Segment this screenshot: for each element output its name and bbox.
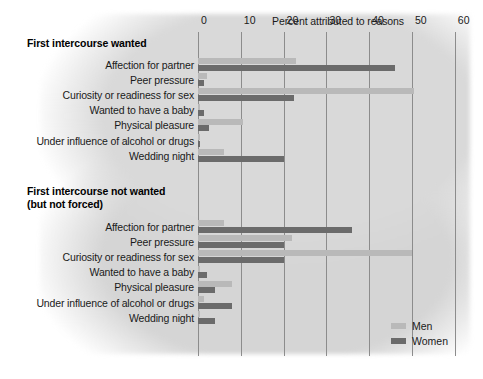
- legend-swatch-icon: [391, 323, 406, 329]
- bar-women: [198, 227, 352, 233]
- legend-label: Women: [412, 335, 448, 347]
- chart-root: Percent attributed to reasons 0102030405…: [0, 0, 483, 379]
- gridline-40: [369, 32, 370, 356]
- bar-women: [198, 242, 284, 248]
- gridline-30: [326, 32, 327, 356]
- bar-women: [198, 110, 204, 116]
- legend-label: Men: [412, 320, 432, 332]
- gridline-20: [284, 32, 285, 356]
- category-label: Affection for partner: [8, 221, 194, 233]
- category-label: Peer pressure: [8, 236, 194, 248]
- x-tick-label-10: 10: [241, 14, 256, 26]
- x-tick-label-50: 50: [412, 14, 427, 26]
- legend: MenWomen: [391, 318, 448, 348]
- bar-men: [198, 134, 200, 140]
- bar-women: [198, 156, 284, 162]
- category-label: Wanted to have a baby: [8, 266, 194, 278]
- bar-men: [198, 119, 243, 125]
- legend-item: Men: [391, 318, 448, 333]
- bar-men: [198, 88, 414, 94]
- bar-men: [198, 220, 224, 226]
- category-label: Curiosity or readiness for sex: [8, 251, 194, 263]
- bar-women: [198, 65, 395, 71]
- x-tick-label-60: 60: [455, 14, 470, 26]
- bar-women: [198, 318, 215, 324]
- category-label: Wedding night: [8, 312, 194, 324]
- category-label: Wedding night: [8, 150, 194, 162]
- bar-women: [198, 303, 232, 309]
- category-label: Physical pleasure: [8, 119, 194, 131]
- gridline-60: [455, 32, 456, 356]
- x-tick-label-30: 30: [326, 14, 341, 26]
- category-label: Affection for partner: [8, 59, 194, 71]
- category-labels: Affection for partnerPeer pressureCurios…: [8, 0, 194, 379]
- gridline-10: [241, 32, 242, 356]
- legend-swatch-icon: [391, 338, 406, 344]
- bar-women: [198, 80, 204, 86]
- bar-women: [198, 272, 207, 278]
- bar-men: [198, 281, 232, 287]
- bar-women: [198, 257, 284, 263]
- bar-men: [198, 149, 224, 155]
- x-tick-label-0: 0: [198, 14, 207, 26]
- bar-men: [198, 58, 296, 64]
- bar-men: [198, 266, 200, 272]
- bar-men: [198, 296, 204, 302]
- bar-men: [198, 250, 412, 256]
- category-label: Peer pressure: [8, 74, 194, 86]
- bar-women: [198, 141, 200, 147]
- category-label: Wanted to have a baby: [8, 104, 194, 116]
- x-tick-label-40: 40: [369, 14, 384, 26]
- category-label: Under influence of alcohol or drugs: [8, 135, 194, 147]
- bar-women: [198, 287, 215, 293]
- category-label: Physical pleasure: [8, 281, 194, 293]
- plot-area: 0102030405060: [198, 32, 456, 356]
- bar-men: [198, 73, 207, 79]
- category-label: Under influence of alcohol or drugs: [8, 297, 194, 309]
- x-tick-label-20: 20: [284, 14, 299, 26]
- category-label: Curiosity or readiness for sex: [8, 89, 194, 101]
- gridline-50: [412, 32, 413, 356]
- bar-women: [198, 95, 294, 101]
- bar-men: [198, 235, 292, 241]
- bar-men: [198, 311, 200, 317]
- bar-men: [198, 104, 200, 110]
- legend-item: Women: [391, 333, 448, 348]
- bar-women: [198, 125, 209, 131]
